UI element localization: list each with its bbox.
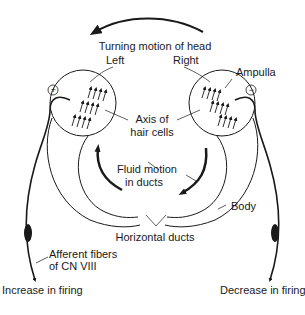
label-decrease-firing: Decrease in firing — [220, 284, 305, 296]
left-hair-cells — [72, 88, 106, 129]
label-fluid-motion-2: in ducts — [125, 176, 163, 188]
vestibular-diagram: Turning motion of head Left Right Ampull… — [0, 0, 305, 315]
semicircular-canals — [47, 70, 258, 227]
head-turn-arrow-icon — [95, 19, 203, 33]
label-body: Body — [231, 200, 256, 212]
label-horizontal-ducts: Horizontal ducts — [100, 231, 210, 243]
label-afferent-fibers-2: of CN VIII — [49, 260, 97, 272]
label-increase-firing: Increase in firing — [2, 284, 83, 296]
label-right: Right — [173, 54, 199, 66]
minus-sign: − — [247, 84, 256, 96]
label-fluid-motion-1: Fluid motion — [117, 163, 177, 175]
label-left: Left — [106, 54, 124, 66]
plus-sign: + — [49, 84, 58, 96]
right-hair-cells — [202, 88, 236, 129]
label-axis-hair-cells-2: hair cells — [122, 126, 182, 138]
label-afferent-fibers-1: Afferent fibers — [49, 248, 117, 260]
right-afferent-fiber — [235, 97, 279, 280]
title-turning-motion: Turning motion of head — [80, 40, 230, 52]
label-axis-hair-cells-1: Axis of — [122, 113, 182, 125]
label-ampulla: Ampulla — [236, 66, 276, 78]
right-fluid-arrow-icon — [182, 148, 206, 193]
